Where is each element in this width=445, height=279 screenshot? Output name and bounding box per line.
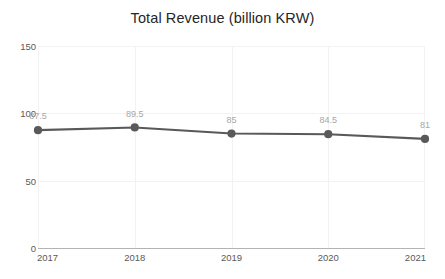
x-tick-label: 2018 [124, 252, 145, 263]
data-label: 87.5 [29, 111, 47, 121]
series-markers [34, 123, 429, 143]
series-marker [34, 126, 42, 134]
series-marker [131, 123, 139, 131]
chart-container: Total Revenue (billion KRW) 150 100 50 0… [0, 0, 445, 279]
x-tick-label: 2019 [221, 252, 242, 263]
data-label: 84.5 [320, 115, 338, 125]
series-marker [324, 130, 332, 138]
data-label: 85 [226, 115, 236, 125]
x-tick-label: 2017 [37, 252, 58, 263]
series-marker [227, 129, 235, 137]
x-tick-label: 2021 [405, 252, 426, 263]
data-label: 81 [420, 120, 430, 130]
data-label: 89.5 [126, 109, 144, 119]
series-marker [421, 135, 429, 143]
series-total-revenue [0, 0, 445, 279]
x-tick-label: 2020 [318, 252, 339, 263]
